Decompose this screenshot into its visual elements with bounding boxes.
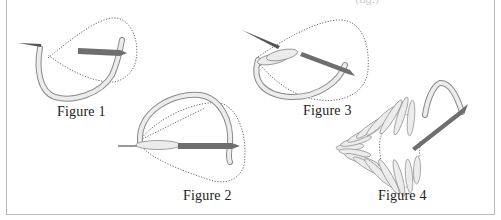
needle-icon (178, 143, 240, 149)
figure-4-label: Figure 4 (378, 188, 427, 204)
needle-tip-icon (242, 30, 280, 49)
figure-4-drawing (336, 83, 468, 197)
figure-2-label: Figure 2 (183, 188, 232, 204)
needle-icon (412, 104, 468, 151)
figure-3-label: Figure 3 (303, 103, 352, 119)
figure-1-drawing (18, 18, 137, 99)
figure-2-drawing (118, 95, 245, 182)
figure-1-label: Figure 1 (57, 104, 106, 120)
figure-3-drawing (242, 20, 368, 100)
